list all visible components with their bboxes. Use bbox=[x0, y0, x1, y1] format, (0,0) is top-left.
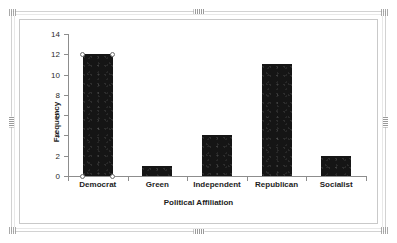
resize-handle-bottom-left[interactable] bbox=[9, 227, 16, 234]
resize-handle-top-left[interactable] bbox=[9, 9, 16, 16]
resize-handle-bottom-center[interactable] bbox=[193, 229, 204, 234]
y-axis-tick bbox=[64, 95, 68, 96]
bar-democrat[interactable] bbox=[83, 54, 113, 176]
y-axis-tick bbox=[64, 135, 68, 136]
y-axis-tick-labels: 02468101214 bbox=[20, 20, 60, 225]
y-axis-tick-label: 10 bbox=[20, 70, 60, 79]
x-axis-category-label: Independent bbox=[193, 180, 241, 189]
x-axis-category-label: Green bbox=[146, 180, 169, 189]
bar-independent[interactable] bbox=[202, 135, 232, 176]
plot-area bbox=[68, 34, 366, 176]
resize-handle-left-middle[interactable] bbox=[9, 116, 14, 127]
x-axis-tick bbox=[306, 177, 307, 181]
y-axis-tick-label: 14 bbox=[20, 30, 60, 39]
y-axis-tick bbox=[64, 54, 68, 55]
resize-handle-top-center[interactable] bbox=[193, 9, 204, 14]
y-axis-tick bbox=[64, 75, 68, 76]
y-axis-tick bbox=[64, 34, 68, 35]
y-axis-tick-label: 2 bbox=[20, 151, 60, 160]
x-axis-category-label: Republican bbox=[255, 180, 298, 189]
y-axis-tick bbox=[64, 156, 68, 157]
x-axis-category-label: Democrat bbox=[79, 180, 116, 189]
bar-republican[interactable] bbox=[262, 64, 292, 176]
x-axis-tick bbox=[128, 177, 129, 181]
bar-socialist[interactable] bbox=[321, 156, 351, 176]
y-axis-tick-label: 12 bbox=[20, 50, 60, 59]
y-axis-tick-label: 4 bbox=[20, 131, 60, 140]
y-axis-tick bbox=[64, 115, 68, 116]
bar-selection-handle[interactable] bbox=[110, 52, 115, 57]
x-axis-category-label: Socialist bbox=[320, 180, 353, 189]
resize-handle-right-middle[interactable] bbox=[383, 116, 388, 127]
x-axis-tick bbox=[187, 177, 188, 181]
y-axis-tick-label: 6 bbox=[20, 111, 60, 120]
x-axis-tick bbox=[68, 177, 69, 181]
bar-green[interactable] bbox=[142, 166, 172, 176]
x-axis-title: Political Affiliation bbox=[20, 198, 377, 207]
resize-handle-bottom-right[interactable] bbox=[381, 227, 388, 234]
x-axis-tick bbox=[366, 177, 367, 181]
resize-handle-top-right[interactable] bbox=[381, 9, 388, 16]
bar-selection-handle[interactable] bbox=[80, 174, 85, 179]
bar-chart[interactable]: Frequency 02468101214 Political Affiliat… bbox=[19, 19, 378, 224]
bar-selection-handle[interactable] bbox=[110, 174, 115, 179]
y-axis-tick-label: 8 bbox=[20, 90, 60, 99]
y-axis-tick-label: 0 bbox=[20, 172, 60, 181]
chart-object-selection-frame[interactable]: Frequency 02468101214 Political Affiliat… bbox=[11, 11, 386, 232]
x-axis-tick bbox=[247, 177, 248, 181]
